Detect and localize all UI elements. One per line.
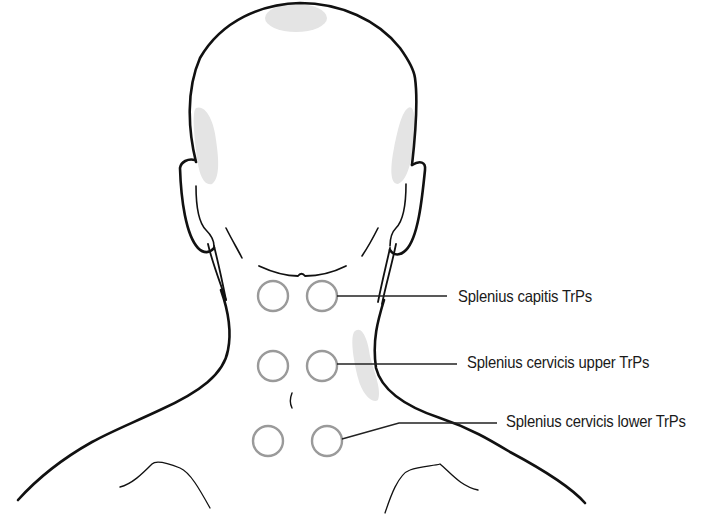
right-jaw-line [362, 228, 378, 256]
right-ear-inner [390, 184, 406, 246]
pain-zone-vertex [265, 4, 327, 32]
label-splenius-cervicis-lower: Splenius cervicis lower TrPs [506, 412, 686, 431]
label-splenius-cervicis-upper: Splenius cervicis upper TrPs [467, 353, 649, 372]
pain-zone-right-temporal [391, 107, 414, 184]
spine-mark [291, 393, 293, 408]
left-scapula-line [120, 462, 210, 508]
trigger-points [253, 281, 342, 456]
occipital-line [259, 266, 346, 276]
trp-cervicis-lower-right [312, 426, 342, 456]
body-outline [18, 3, 585, 513]
left-neck-shoulder-outline [18, 290, 230, 500]
trp-capitis-left [258, 281, 288, 311]
posterior-head-neck-diagram [0, 0, 721, 524]
left-ear-inner [196, 186, 214, 246]
left-neck-line-b [208, 244, 226, 300]
trp-capitis-right [307, 281, 337, 311]
pain-zone-left-temporal [194, 107, 219, 184]
trp-cervicis-upper-right [307, 351, 337, 381]
right-scapula-line [385, 464, 478, 513]
referred-pain-zones [194, 4, 415, 401]
trp-cervicis-lower-left [253, 426, 283, 456]
left-jaw-line [226, 228, 242, 258]
label-splenius-capitis: Splenius capitis TrPs [458, 287, 592, 306]
trp-cervicis-upper-left [258, 351, 288, 381]
